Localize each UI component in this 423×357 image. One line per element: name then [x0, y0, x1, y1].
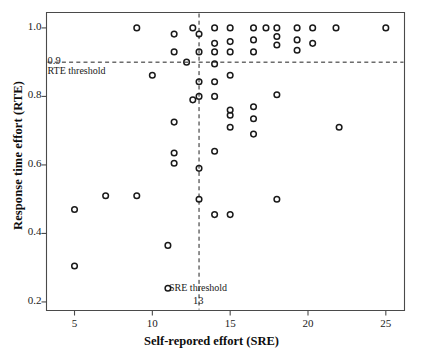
data-point — [227, 25, 233, 31]
data-point — [171, 119, 177, 125]
data-point — [251, 116, 257, 122]
data-point — [274, 92, 280, 98]
x-axis-title: Self-repored effort (SRE) — [0, 334, 423, 349]
rte-threshold-label: RTE threshold — [48, 65, 106, 76]
data-point — [212, 212, 218, 218]
data-point — [171, 150, 177, 156]
y-tick-label-2: 0.8 — [16, 88, 42, 100]
data-point — [190, 25, 196, 31]
data-point — [212, 148, 218, 154]
data-point — [72, 207, 78, 213]
data-point — [294, 47, 300, 53]
x-tick-label-4: 20 — [301, 317, 315, 329]
data-point — [150, 72, 156, 78]
x-tick-label-2: 10 — [145, 317, 159, 329]
data-point — [103, 193, 109, 199]
data-point — [251, 104, 257, 110]
data-point — [212, 49, 218, 55]
data-point — [134, 193, 140, 199]
data-point — [263, 25, 269, 31]
scatter-plot-figure: Response time effort (RTE) Self-repored … — [0, 0, 423, 357]
data-point — [212, 41, 218, 47]
y-tick-label-1: 1.0 — [16, 20, 42, 32]
data-point — [165, 243, 171, 249]
y-tick-label-3: 0.6 — [16, 157, 42, 169]
plot-frame — [47, 13, 405, 311]
data-point — [212, 79, 218, 85]
data-point — [227, 49, 233, 55]
data-point — [134, 25, 140, 31]
data-point — [274, 25, 280, 31]
data-point — [171, 160, 177, 166]
data-point — [227, 212, 233, 218]
data-point — [274, 34, 280, 40]
x-tick-label-3: 15 — [223, 317, 237, 329]
plot-canvas — [0, 0, 423, 357]
data-point — [294, 37, 300, 43]
data-point — [190, 97, 196, 103]
y-tick-label-4: 0.4 — [16, 225, 42, 237]
data-point — [72, 263, 78, 269]
data-point — [310, 41, 316, 47]
data-point — [251, 37, 257, 43]
data-point — [274, 42, 280, 48]
data-point — [251, 49, 257, 55]
data-point — [171, 49, 177, 55]
data-point — [227, 124, 233, 130]
data-point — [333, 25, 339, 31]
data-point — [251, 25, 257, 31]
data-point — [171, 31, 177, 37]
data-point — [383, 25, 389, 31]
sre-threshold-value: 13 — [193, 295, 204, 306]
data-point — [310, 25, 316, 31]
data-point — [336, 124, 342, 130]
data-point — [227, 39, 233, 45]
data-point — [274, 196, 280, 202]
data-point — [251, 131, 257, 137]
data-point — [294, 25, 300, 31]
sre-threshold-label: SRE threshold — [169, 282, 227, 293]
y-tick-label-5: 0.2 — [16, 294, 42, 306]
data-point — [212, 25, 218, 31]
data-point — [212, 94, 218, 100]
x-tick-label-5: 25 — [379, 317, 393, 329]
data-point — [227, 72, 233, 78]
x-tick-label-1: 5 — [68, 317, 82, 329]
